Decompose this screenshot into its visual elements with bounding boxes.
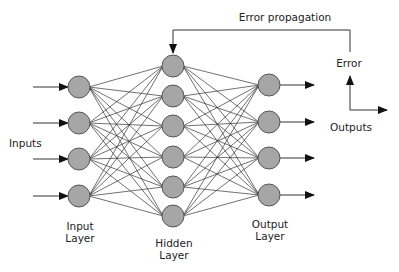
- output-node: [258, 74, 280, 96]
- error-label: Error: [336, 57, 362, 69]
- edge: [183, 157, 259, 158]
- edge: [89, 123, 163, 187]
- neural-network-diagram: [0, 0, 399, 272]
- edge: [89, 196, 163, 216]
- edge: [89, 96, 163, 123]
- edge: [89, 159, 163, 216]
- output-node: [258, 184, 280, 206]
- output-node: [258, 147, 280, 169]
- edge: [183, 158, 259, 216]
- output-node: [258, 111, 280, 133]
- input-layer-label: Input Layer: [65, 220, 94, 244]
- error-propagation-title: Error propagation: [239, 11, 331, 23]
- edge: [183, 66, 259, 85]
- edge: [89, 157, 163, 159]
- hidden-node: [162, 55, 184, 77]
- input-node: [68, 112, 90, 134]
- edge: [89, 123, 163, 126]
- hidden-node: [162, 115, 184, 137]
- edge: [89, 66, 163, 159]
- edge: [183, 187, 259, 195]
- hidden-layer-label-line1: Hidden: [155, 237, 192, 249]
- output-layer-label-line1: Output: [252, 218, 288, 230]
- network-nodes: [68, 55, 280, 227]
- hidden-layer-label: Hidden Layer: [155, 237, 192, 261]
- inputs-label: Inputs: [9, 137, 42, 149]
- outputs-label: Outputs: [330, 121, 372, 133]
- edge: [183, 122, 259, 187]
- edge: [183, 122, 259, 126]
- input-node: [68, 148, 90, 170]
- input-node: [68, 76, 90, 98]
- edge: [183, 96, 259, 195]
- output-layer-label: Output Layer: [252, 218, 288, 242]
- hidden-node: [162, 176, 184, 198]
- edge: [183, 66, 259, 158]
- error-feedback-line: [173, 30, 350, 53]
- edge: [183, 195, 259, 216]
- edge: [183, 85, 259, 157]
- hidden-node: [162, 205, 184, 227]
- hidden-node: [162, 146, 184, 168]
- edge: [89, 96, 163, 159]
- output-layer-label-line2: Layer: [252, 230, 288, 242]
- edge: [89, 66, 163, 87]
- input-node: [68, 185, 90, 207]
- hidden-layer-label-line2: Layer: [155, 249, 192, 261]
- edge: [183, 85, 259, 216]
- input-layer-label-line2: Layer: [65, 232, 94, 244]
- edge: [89, 187, 163, 196]
- input-layer-label-line1: Input: [65, 220, 94, 232]
- edge: [89, 96, 163, 196]
- hidden-node: [162, 85, 184, 107]
